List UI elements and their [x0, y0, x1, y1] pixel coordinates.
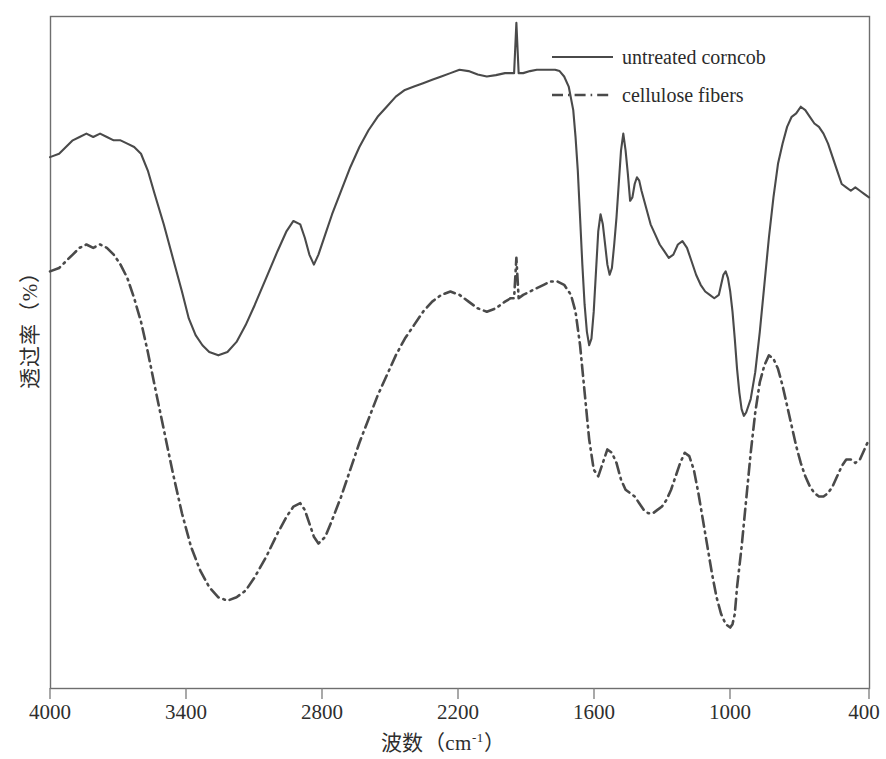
x-tick-label-2200: 2200 [437, 700, 479, 725]
x-tick-label-4000: 4000 [29, 700, 71, 725]
x-tick-label-2800: 2800 [301, 700, 343, 725]
curve-cellulose-fibers [50, 244, 869, 627]
plot-frame [51, 17, 870, 689]
x-axis-label-main: 波数（cm [381, 731, 472, 755]
x-tick-label-1600: 1600 [573, 700, 615, 725]
x-tick-label-3400: 3400 [165, 700, 207, 725]
ftir-spectrum-figure: 4000 3400 2800 2200 1600 1000 400 波数（cm-… [0, 0, 886, 759]
y-axis-label: 透过率（%） [13, 235, 43, 415]
x-axis-label-superscript: -1 [472, 730, 484, 745]
x-axis-ticks [50, 688, 869, 699]
x-axis-label-tail: ） [484, 731, 506, 755]
curve-untreated-corncob [50, 23, 869, 416]
x-tick-label-400: 400 [848, 700, 880, 725]
x-axis-label: 波数（cm-1） [0, 726, 886, 756]
x-tick-label-1000: 1000 [709, 700, 751, 725]
spectrum-plot-area [0, 0, 886, 759]
legend-label-cellulose-fibers: cellulose fibers [622, 84, 744, 107]
legend-label-untreated-corncob: untreated corncob [622, 46, 766, 69]
